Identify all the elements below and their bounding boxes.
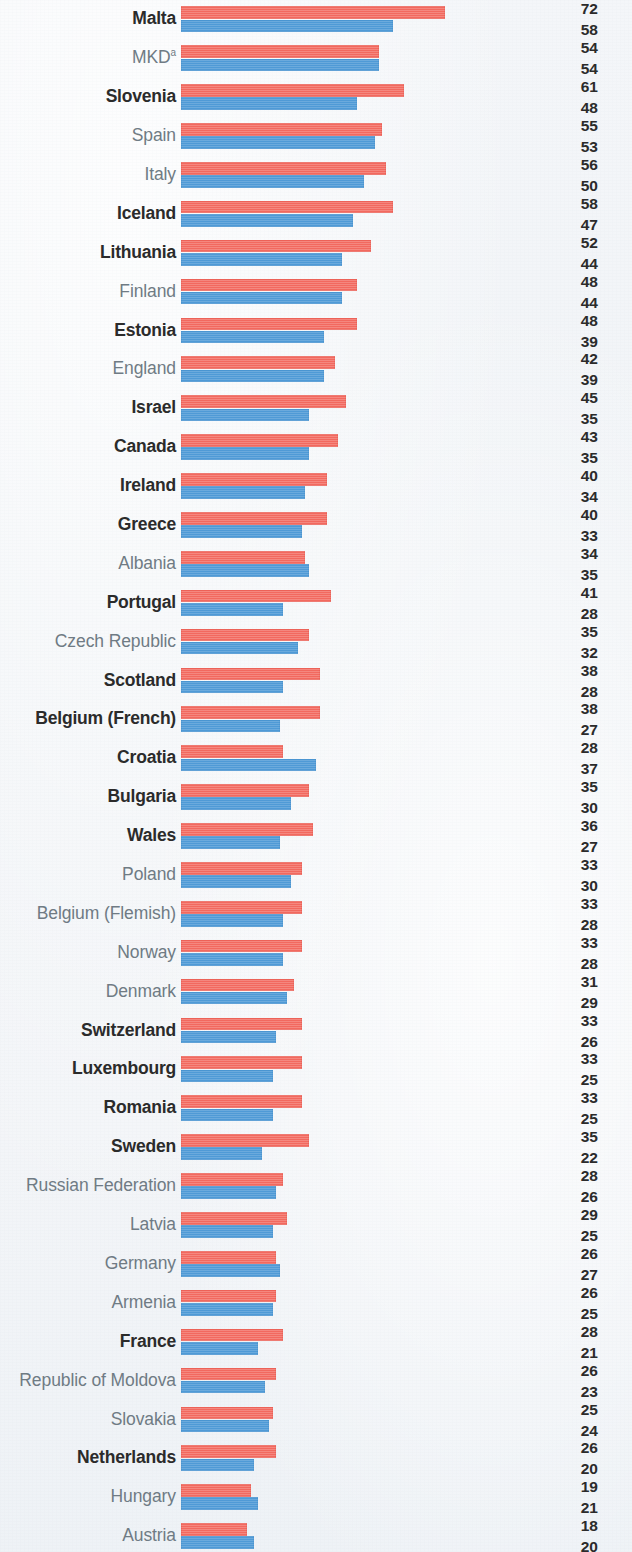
chart-rows-container: Malta7258MKDa5454Slovenia6148Spain5553It…: [0, 0, 632, 1552]
table-row: Wales3627: [0, 817, 632, 856]
bar-pair: [181, 940, 561, 966]
bar-pair: [181, 862, 561, 888]
bar-pair: [181, 1329, 561, 1355]
bar-pair: [181, 1368, 561, 1394]
bar-pair: [181, 1056, 561, 1082]
table-row: Czech Republic3532: [0, 622, 632, 661]
bar-red: [181, 668, 320, 681]
row-label-text: Luxembourg: [72, 1059, 176, 1079]
row-values: 2826: [556, 1168, 598, 1205]
row-label-text: Scotland: [104, 670, 176, 690]
bar-pair: [181, 590, 561, 616]
bar-pair: [181, 279, 561, 305]
table-row: Ireland4034: [0, 467, 632, 506]
row-label: Wales: [127, 827, 176, 845]
row-label-text: Malta: [132, 9, 176, 29]
bar-blue: [181, 97, 357, 110]
row-label: France: [120, 1333, 176, 1351]
row-values: 5553: [556, 118, 598, 155]
value-red: 26: [556, 1246, 598, 1262]
bar-pair: [181, 84, 561, 110]
row-values: 3522: [556, 1129, 598, 1166]
value-blue: 30: [556, 878, 598, 894]
row-label: Estonia: [114, 322, 176, 340]
row-values: 4535: [556, 390, 598, 427]
value-blue: 39: [556, 372, 598, 388]
row-label-text: Czech Republic: [55, 631, 176, 651]
bar-pair: [181, 434, 561, 460]
bar-red: [181, 434, 338, 447]
row-label: Canada: [114, 438, 176, 456]
row-label-footnote-marker: a: [171, 48, 176, 59]
value-blue: 21: [556, 1344, 598, 1360]
value-blue: 28: [556, 917, 598, 933]
row-label-text: Germany: [105, 1253, 176, 1273]
row-label: Bulgaria: [108, 789, 176, 807]
value-blue: 28: [556, 606, 598, 622]
bar-blue: [181, 1381, 265, 1394]
bar-blue: [181, 1225, 273, 1238]
bar-pair: [181, 512, 561, 538]
bar-pair: [181, 201, 561, 227]
row-label: Slovakia: [111, 1411, 176, 1429]
row-label-text: Belgium (Flemish): [37, 903, 176, 923]
row-label-text: Croatia: [117, 748, 176, 768]
row-label: Republic of Moldova: [19, 1372, 176, 1390]
row-label-text: Netherlands: [77, 1448, 176, 1468]
row-values: 3828: [556, 662, 598, 699]
row-label-text: Russian Federation: [26, 1175, 176, 1195]
table-row: Bulgaria3530: [0, 778, 632, 817]
bar-blue: [181, 136, 375, 149]
row-label-text: Republic of Moldova: [19, 1370, 176, 1390]
bar-red: [181, 240, 371, 253]
row-label-text: Lithuania: [100, 242, 176, 262]
row-label-text: Wales: [127, 825, 176, 845]
table-row: Spain5553: [0, 117, 632, 156]
bar-blue: [181, 253, 342, 266]
bar-blue: [181, 1536, 254, 1549]
value-red: 55: [556, 118, 598, 134]
table-row: Finland4844: [0, 272, 632, 311]
table-row: England4239: [0, 350, 632, 389]
bar-blue: [181, 175, 364, 188]
table-row: France2821: [0, 1322, 632, 1361]
table-row: Slovenia6148: [0, 78, 632, 117]
bar-red: [181, 1095, 302, 1108]
bar-red: [181, 6, 445, 19]
value-red: 28: [556, 1323, 598, 1339]
row-label: Israel: [131, 400, 176, 418]
value-red: 33: [556, 1090, 598, 1106]
value-red: 33: [556, 1012, 598, 1028]
row-values: 2625: [556, 1285, 598, 1322]
bar-pair: [181, 45, 561, 71]
row-values: 4239: [556, 351, 598, 388]
table-row: Israel4535: [0, 389, 632, 428]
row-values: 2837: [556, 740, 598, 777]
table-row: Belgium (Flemish)3328: [0, 894, 632, 933]
row-values: 3530: [556, 779, 598, 816]
value-red: 33: [556, 935, 598, 951]
row-values: 3435: [556, 546, 598, 583]
bar-pair: [181, 1523, 561, 1549]
row-values: 5244: [556, 235, 598, 272]
row-label: Italy: [144, 166, 176, 184]
row-values: 4128: [556, 585, 598, 622]
row-label: Croatia: [117, 750, 176, 768]
bar-red: [181, 318, 357, 331]
bar-pair: [181, 1134, 561, 1160]
bar-pair: [181, 668, 561, 694]
row-label: Lithuania: [100, 244, 176, 262]
bar-blue: [181, 681, 283, 694]
row-label-text: France: [120, 1331, 176, 1351]
row-values: 6148: [556, 79, 598, 116]
row-label-text: Bulgaria: [108, 787, 176, 807]
row-values: 5847: [556, 196, 598, 233]
value-red: 28: [556, 1168, 598, 1184]
table-row: Italy5650: [0, 156, 632, 195]
value-blue: 44: [556, 294, 598, 310]
row-label-text: Poland: [122, 864, 176, 884]
row-values: 1921: [556, 1479, 598, 1516]
bar-blue: [181, 875, 291, 888]
row-label: Albania: [118, 555, 176, 573]
bar-pair: [181, 1407, 561, 1433]
